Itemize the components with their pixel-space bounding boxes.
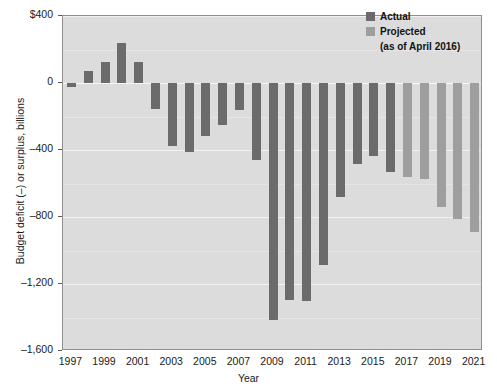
bar-2003 (168, 83, 177, 146)
y-tick-label: $400 (0, 8, 53, 20)
y-axis-title: Budget deficit (–) or surplus, billions (14, 66, 26, 296)
y-tick-mark (58, 350, 62, 351)
legend-label-projected: Projected (380, 25, 426, 38)
bar-1999 (101, 62, 110, 83)
bar-2007 (235, 83, 244, 110)
bar-2010 (285, 83, 294, 300)
plot-area (62, 15, 482, 350)
bar-2012 (319, 83, 328, 265)
bar-2011 (302, 83, 311, 301)
bar-1997 (67, 83, 76, 87)
bar-2021 (470, 83, 479, 232)
bar-2020 (453, 83, 462, 219)
y-tick-label: –400 (0, 142, 53, 154)
y-tick-label: –1,600 (0, 343, 53, 355)
bar-2016 (386, 83, 395, 172)
bar-2019 (437, 83, 446, 207)
x-tick-label: 2021 (454, 355, 494, 367)
legend: Actual Projected (as of April 2016) (366, 10, 460, 53)
legend-label-projected-sub: (as of April 2016) (380, 40, 460, 53)
y-tick-label: 0 (0, 75, 53, 87)
bar-2014 (353, 83, 362, 164)
bar-2005 (201, 83, 210, 136)
bar-2001 (134, 62, 143, 83)
bar-2004 (185, 83, 194, 152)
x-axis-title: Year (0, 372, 497, 384)
legend-label-actual: Actual (380, 10, 411, 23)
y-tick-label: –1,200 (0, 276, 53, 288)
bar-2006 (218, 83, 227, 125)
bar-2018 (420, 83, 429, 179)
bar-2009 (269, 83, 278, 320)
legend-swatch-actual-icon (366, 12, 375, 21)
bar-2013 (336, 83, 345, 197)
bar-2015 (369, 83, 378, 156)
bar-2000 (117, 43, 126, 83)
legend-item-actual: Actual (366, 10, 460, 23)
bar-1998 (84, 71, 93, 83)
bar-2008 (252, 83, 261, 160)
legend-swatch-projected-icon (366, 27, 375, 36)
legend-item-projected: Projected (366, 25, 460, 38)
bar-2002 (151, 83, 160, 109)
y-tick-label: –800 (0, 209, 53, 221)
bar-2017 (403, 83, 412, 177)
budget-deficit-chart: Budget deficit (–) or surplus, billions … (0, 0, 497, 391)
